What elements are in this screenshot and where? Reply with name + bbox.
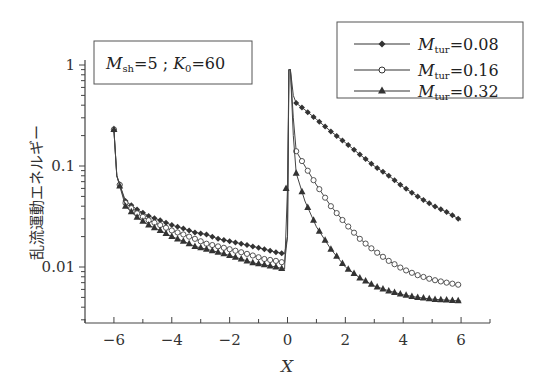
svg-text:Mtur=0.32: Mtur=0.32	[417, 82, 499, 102]
open-circle-icon	[369, 246, 374, 251]
open-circle-icon	[305, 168, 310, 173]
open-circle-icon	[192, 236, 197, 241]
filled-diamond-icon	[238, 241, 244, 247]
svg-text:Mtur=0.16: Mtur=0.16	[417, 61, 499, 81]
open-circle-icon	[317, 187, 322, 192]
filled-diamond-icon	[204, 231, 210, 237]
open-circle-icon	[450, 281, 455, 286]
filled-triangle-icon	[356, 274, 363, 281]
filled-diamond-icon	[409, 190, 415, 196]
filled-diamond-icon	[192, 229, 198, 235]
open-circle-icon	[432, 278, 437, 283]
x-tick-label: 4	[398, 331, 408, 349]
filled-diamond-icon	[449, 212, 455, 218]
open-circle-icon	[273, 258, 278, 263]
filled-triangle-icon	[455, 297, 462, 304]
filled-diamond-icon	[426, 200, 432, 206]
open-circle-icon	[404, 268, 409, 273]
y-tick-label: 1	[65, 56, 75, 74]
open-circle-icon	[438, 279, 443, 284]
filled-diamond-icon	[250, 243, 256, 249]
filled-triangle-icon	[443, 296, 450, 303]
filled-diamond-icon	[279, 250, 285, 256]
filled-triangle-icon	[283, 184, 290, 191]
open-circle-icon	[311, 178, 316, 183]
filled-triangle-icon	[432, 295, 439, 302]
open-circle-icon	[456, 282, 461, 287]
open-circle-icon	[334, 210, 339, 215]
open-circle-icon	[323, 195, 328, 200]
y-tick-label: 0.1	[51, 157, 75, 175]
open-circle-icon	[227, 247, 232, 252]
open-circle-icon	[328, 204, 333, 209]
open-circle-icon	[233, 248, 238, 253]
legend: Mtur=0.08 Mtur=0.16 Mtur=0.32	[337, 22, 523, 102]
filled-diamond-icon	[256, 245, 262, 251]
filled-diamond-icon	[438, 206, 444, 212]
open-circle-icon	[415, 273, 420, 278]
open-circle-icon	[239, 250, 244, 255]
series-line	[114, 70, 461, 302]
line-chart: 0.010.11−6−4−20246 Msh=5 ; K0=60 Mtur=0.…	[0, 0, 533, 380]
filled-diamond-icon	[444, 209, 450, 215]
open-circle-icon	[386, 258, 391, 263]
series-M_tur=0.32	[110, 70, 461, 304]
annotation-m-val: =5 ;	[134, 54, 173, 73]
filled-diamond-icon	[374, 165, 380, 171]
open-circle-icon	[444, 280, 449, 285]
filled-triangle-icon	[304, 203, 311, 210]
open-circle-icon	[198, 239, 203, 244]
annotation-m: M	[105, 54, 123, 73]
x-tick-label: −2	[219, 331, 241, 349]
open-circle-icon	[215, 244, 220, 249]
filled-triangle-icon	[345, 265, 352, 272]
filled-diamond-icon	[186, 228, 192, 234]
series-M_tur=0.16	[111, 70, 461, 288]
open-circle-icon	[351, 230, 356, 235]
filled-diamond-icon	[180, 226, 186, 232]
filled-diamond-icon	[198, 230, 204, 236]
filled-triangle-icon	[293, 169, 300, 176]
open-circle-icon	[427, 276, 432, 281]
open-circle-icon	[346, 224, 351, 229]
open-circle-icon	[279, 260, 284, 265]
open-circle-icon	[181, 232, 186, 237]
x-tick-label: 6	[456, 331, 466, 349]
parameter-annotation-box: Msh=5 ; K0=60	[94, 41, 252, 84]
x-axis-title: X	[279, 356, 294, 376]
filled-diamond-icon	[221, 237, 227, 243]
filled-diamond-icon	[403, 186, 409, 192]
open-circle-icon	[357, 236, 362, 241]
filled-diamond-icon	[432, 203, 438, 209]
open-circle-icon	[421, 274, 426, 279]
filled-diamond-icon	[175, 224, 181, 230]
filled-triangle-icon	[449, 296, 456, 303]
y-tick-label: 0.01	[42, 258, 75, 276]
filled-triangle-icon	[310, 216, 317, 223]
annotation-k-val: =60	[191, 54, 225, 73]
filled-diamond-icon	[380, 169, 386, 175]
open-circle-icon	[187, 234, 192, 239]
x-tick-label: −4	[161, 331, 183, 349]
open-circle-icon	[262, 256, 267, 261]
open-circle-icon	[175, 230, 180, 235]
filled-diamond-icon	[261, 246, 267, 252]
filled-diamond-icon	[215, 236, 221, 242]
svg-text:Mtur=0.08: Mtur=0.08	[417, 35, 499, 55]
series-layer	[110, 70, 461, 304]
y-axis-title: 乱流運動エネルギー	[28, 125, 46, 260]
filled-diamond-icon	[227, 238, 233, 244]
open-circle-icon	[409, 270, 414, 275]
filled-diamond-icon	[415, 193, 421, 199]
filled-diamond-icon	[244, 242, 250, 248]
open-circle-icon	[299, 158, 304, 163]
filled-diamond-icon	[455, 216, 461, 222]
open-circle-icon	[250, 253, 255, 258]
open-circle-icon	[340, 217, 345, 222]
filled-diamond-icon	[169, 222, 175, 228]
filled-diamond-icon	[420, 197, 426, 203]
x-tick-label: 0	[283, 331, 293, 349]
open-circle-icon	[221, 245, 226, 250]
filled-triangle-icon	[298, 188, 305, 195]
filled-diamond-icon	[232, 239, 238, 245]
